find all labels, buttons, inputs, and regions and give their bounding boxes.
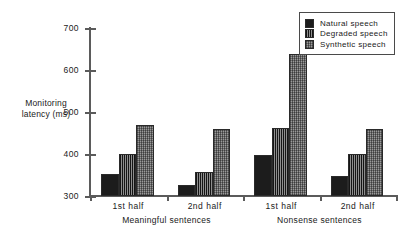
- y-axis-tick-label: 500: [64, 107, 79, 117]
- vertical-striped-swatch: [305, 29, 314, 38]
- legend-item: Synthetic speech: [305, 40, 388, 49]
- x-axis-tick: [90, 195, 92, 201]
- x-axis-tick: [243, 195, 245, 201]
- y-axis-tick-label: 700: [64, 23, 79, 33]
- bar-synthetic-speech: [289, 54, 307, 196]
- bar-natural-speech: [101, 174, 119, 196]
- bar-degraded-speech: [119, 154, 137, 196]
- bar-chart: Monitoring latency (ms) 300400500600700 …: [0, 0, 417, 234]
- bar-synthetic-speech: [136, 125, 154, 196]
- bar-degraded-speech: [348, 154, 366, 196]
- legend-item: Degraded speech: [305, 29, 388, 38]
- x-axis-category-label: 2nd half: [341, 201, 375, 211]
- bar-synthetic-speech: [213, 129, 231, 196]
- bar-degraded-speech: [272, 128, 290, 196]
- legend-item: Natural speech: [305, 19, 388, 28]
- bar-natural-speech: [331, 176, 349, 196]
- y-axis-tick-label: 600: [64, 65, 79, 75]
- bar-degraded-speech: [195, 172, 213, 196]
- bar-natural-speech: [178, 185, 196, 196]
- y-axis-tick: 600: [85, 70, 96, 72]
- bar-synthetic-speech: [366, 129, 384, 196]
- x-axis-tick: [320, 195, 322, 201]
- y-axis-tick: 400: [85, 154, 96, 156]
- legend-item-label: Synthetic speech: [320, 40, 386, 49]
- y-axis-tick-label: 300: [64, 191, 79, 201]
- x-axis-group-label: Meaningful sentences: [122, 215, 211, 225]
- x-axis-group-label: Nonsense sentences: [277, 215, 362, 225]
- y-axis-tick-label: 400: [64, 149, 79, 159]
- bar-natural-speech: [254, 155, 272, 196]
- legend: Natural speechDegraded speechSynthetic s…: [299, 12, 395, 55]
- x-axis-category-label: 1st half: [266, 201, 297, 211]
- x-axis-tick: [167, 195, 169, 201]
- y-axis-tick: 500: [85, 112, 96, 114]
- x-axis-category-label: 2nd half: [188, 201, 222, 211]
- y-axis-tick: 700: [85, 28, 96, 30]
- x-axis-tick: [396, 195, 398, 201]
- x-axis-category-label: 1st half: [113, 201, 144, 211]
- legend-item-label: Natural speech: [320, 19, 378, 28]
- solid-black-swatch: [305, 19, 314, 28]
- speckled-gray-swatch: [305, 40, 314, 49]
- legend-item-label: Degraded speech: [320, 29, 388, 38]
